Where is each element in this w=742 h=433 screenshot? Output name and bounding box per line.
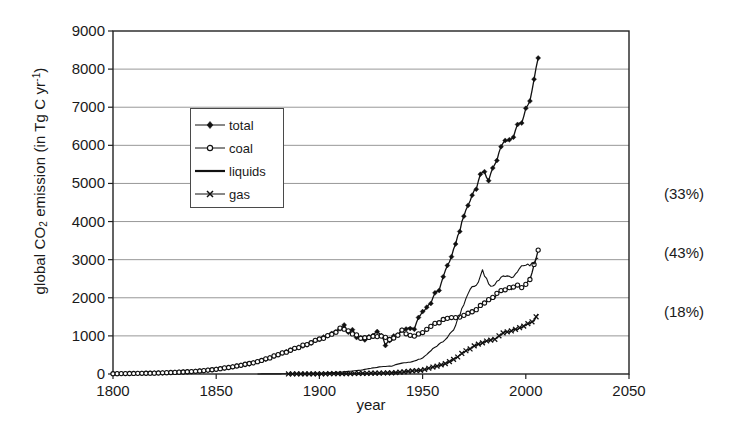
legend-label-liquids: liquids xyxy=(229,164,266,179)
legend-item-total: total xyxy=(191,113,283,137)
series-gas xyxy=(286,314,538,376)
legend-label-coal: coal xyxy=(229,141,253,156)
legend-item-coal: coal xyxy=(191,136,283,160)
data-series xyxy=(111,55,541,376)
chart-figure: global CO2 emission (in Tg C yr-1) year … xyxy=(0,0,742,433)
plot-area xyxy=(0,0,742,433)
series-coal xyxy=(111,248,540,376)
legend-marker-filled-diamond-icon xyxy=(194,118,226,132)
legend-label-gas: gas xyxy=(229,187,250,202)
legend-marker-none-icon xyxy=(194,164,226,178)
series-liquids xyxy=(258,258,539,374)
legend-marker-x-icon xyxy=(194,187,226,201)
series-total xyxy=(111,55,541,376)
legend-item-liquids: liquids xyxy=(191,159,283,183)
legend-label-total: total xyxy=(229,118,254,133)
plot-frame xyxy=(108,31,629,379)
legend-marker-open-circle-icon xyxy=(194,141,226,155)
legend: totalcoalliquidsgas xyxy=(190,108,284,208)
legend-item-gas: gas xyxy=(191,182,283,206)
